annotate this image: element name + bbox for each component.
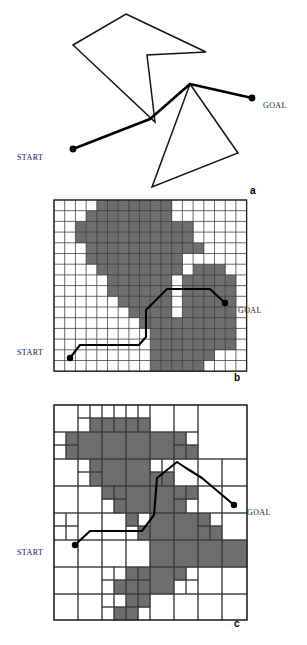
occupied-quad-cell bbox=[102, 486, 114, 499]
occupied-quad-cell bbox=[90, 472, 102, 486]
occupied-cell bbox=[172, 350, 183, 361]
panel-b-start-dot bbox=[67, 355, 73, 361]
occupied-cell bbox=[172, 264, 183, 275]
occupied-quad-cell bbox=[138, 418, 150, 432]
panel-c-goal-dot bbox=[231, 502, 237, 508]
occupied-cell bbox=[204, 264, 215, 275]
occupied-quad-cell bbox=[138, 594, 150, 607]
panel-c-letter: c bbox=[234, 618, 240, 629]
panel-c bbox=[54, 405, 247, 620]
occupied-cell bbox=[129, 254, 140, 265]
occupied-cell bbox=[225, 339, 236, 350]
occupied-cell bbox=[129, 221, 140, 232]
occupied-quad-cell bbox=[102, 418, 114, 432]
occupied-cell bbox=[150, 275, 161, 286]
occupied-cell bbox=[150, 200, 161, 211]
occupied-cell bbox=[182, 339, 193, 350]
occupied-cell bbox=[150, 243, 161, 254]
occupied-quad-cell bbox=[174, 513, 198, 540]
occupied-cell bbox=[108, 243, 119, 254]
occupied-cell bbox=[140, 243, 151, 254]
occupied-quad-cell bbox=[114, 418, 126, 432]
occupied-quad-cell bbox=[174, 499, 186, 513]
occupied-cell bbox=[140, 275, 151, 286]
occupied-cell bbox=[172, 328, 183, 339]
occupied-cell bbox=[172, 339, 183, 350]
occupied-cell bbox=[215, 275, 226, 286]
occupied-cell bbox=[150, 211, 161, 222]
occupied-cell bbox=[193, 286, 204, 297]
panel-b-goal-dot bbox=[222, 300, 228, 306]
occupied-cell bbox=[118, 254, 129, 265]
occupied-cell bbox=[129, 211, 140, 222]
occupied-cell bbox=[193, 243, 204, 254]
occupied-cell bbox=[140, 211, 151, 222]
occupied-cell bbox=[161, 296, 172, 307]
occupied-cell bbox=[140, 232, 151, 243]
occupied-cell bbox=[193, 296, 204, 307]
occupied-cell bbox=[193, 361, 204, 372]
occupied-cell bbox=[161, 200, 172, 211]
occupied-cell bbox=[193, 264, 204, 275]
occupied-cell bbox=[150, 264, 161, 275]
occupied-quad-cell bbox=[222, 540, 247, 567]
occupied-cell bbox=[193, 328, 204, 339]
occupied-cell bbox=[97, 264, 108, 275]
occupied-cell bbox=[86, 243, 97, 254]
occupied-cell bbox=[225, 328, 236, 339]
occupied-cell bbox=[108, 200, 119, 211]
occupied-cell bbox=[129, 275, 140, 286]
occupied-quad-cell bbox=[114, 607, 126, 620]
occupied-cell bbox=[108, 286, 119, 297]
occupied-cell bbox=[215, 318, 226, 329]
occupied-quad-cell bbox=[114, 499, 126, 513]
occupied-quad-cell bbox=[126, 459, 150, 486]
occupied-cell bbox=[172, 361, 183, 372]
occupied-cell bbox=[225, 307, 236, 318]
panel-a-letter: a bbox=[250, 185, 256, 196]
occupied-cell bbox=[204, 328, 215, 339]
occupied-quad-cell bbox=[150, 432, 174, 459]
occupied-cell bbox=[225, 275, 236, 286]
occupied-cell bbox=[204, 339, 215, 350]
occupied-cell bbox=[129, 232, 140, 243]
occupied-cell bbox=[182, 350, 193, 361]
occupied-cell bbox=[97, 254, 108, 265]
occupied-quad-cell bbox=[150, 567, 174, 594]
occupied-cell bbox=[150, 232, 161, 243]
occupied-cell bbox=[108, 232, 119, 243]
panel-b-start-label: START bbox=[17, 348, 43, 357]
occupied-cell bbox=[161, 275, 172, 286]
occupied-cell bbox=[204, 307, 215, 318]
occupied-cell bbox=[215, 307, 226, 318]
occupied-cell bbox=[182, 286, 193, 297]
occupied-cell bbox=[182, 361, 193, 372]
occupied-cell bbox=[108, 264, 119, 275]
occupied-cell bbox=[97, 243, 108, 254]
occupied-cell bbox=[97, 221, 108, 232]
occupied-cell bbox=[172, 221, 183, 232]
occupied-cell bbox=[129, 286, 140, 297]
occupied-cell bbox=[97, 232, 108, 243]
occupied-quad-cell bbox=[210, 526, 222, 540]
panel-c-goal-label: GOAL bbox=[247, 508, 271, 517]
occupied-quad-cell bbox=[114, 486, 126, 499]
occupied-cell bbox=[225, 286, 236, 297]
occupied-quad-cell bbox=[90, 418, 102, 432]
occupied-cell bbox=[108, 275, 119, 286]
occupied-quad-cell bbox=[138, 567, 150, 580]
occupied-quad-cell bbox=[174, 486, 186, 499]
occupied-cell bbox=[86, 232, 97, 243]
occupied-cell bbox=[150, 328, 161, 339]
occupied-cell bbox=[161, 264, 172, 275]
occupied-cell bbox=[182, 232, 193, 243]
occupied-cell bbox=[161, 318, 172, 329]
occupied-cell bbox=[140, 200, 151, 211]
occupied-quad-cell bbox=[174, 432, 186, 445]
occupied-cell bbox=[193, 275, 204, 286]
panel-b-goal-label: GOAL bbox=[238, 306, 262, 315]
occupied-cell bbox=[150, 318, 161, 329]
occupied-quad-cell bbox=[126, 594, 138, 607]
occupied-cell bbox=[118, 200, 129, 211]
panel-c-start-dot bbox=[72, 542, 78, 548]
